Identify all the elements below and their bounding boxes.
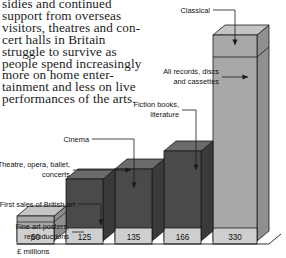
bar-group-records[interactable]: 330 — [213, 25, 269, 244]
callout-first-sales: First sales of British art — [0, 200, 75, 209]
bar-group-fiction[interactable]: 166 — [164, 141, 213, 244]
callout-fiction-line2: literature — [150, 110, 179, 119]
callout-fiction-line1: Fiction books, — [133, 100, 179, 109]
bar-group-cinema[interactable]: 135 — [115, 159, 164, 244]
bar-value-label: 330 — [228, 233, 242, 242]
bar-value-label: 125 — [78, 233, 92, 242]
axis-units-label: £ millions — [17, 247, 50, 256]
bar-side-face — [103, 169, 115, 241]
magazine-page: sidies and continued support from overse… — [0, 0, 286, 258]
bar-front-face — [213, 35, 257, 241]
callout-theatre-line1: Theatre, opera, ballet, — [0, 160, 70, 169]
callout-theatre-line2: concerts — [42, 170, 70, 179]
callout-classical: Classical — [180, 6, 210, 15]
bar-chart: 330 166 135 — [0, 0, 286, 258]
bar-side-face — [152, 159, 164, 241]
chart-svg: 330 166 135 — [0, 0, 286, 258]
callout-cinema: Cinema — [64, 135, 90, 144]
bar-side-face — [257, 25, 269, 241]
callout-posters-line2: reproductions — [24, 232, 69, 241]
bar-value-label: 166 — [176, 233, 190, 242]
baseline-right-edge — [269, 234, 281, 244]
callout-posters-line1: Fine art posters, — [16, 222, 69, 231]
callout-records-line1: All records, discs — [163, 67, 219, 76]
bar-side-face — [201, 141, 213, 241]
callout-records-line2: and cassettes — [173, 77, 219, 86]
bar-value-label: 135 — [127, 233, 141, 242]
